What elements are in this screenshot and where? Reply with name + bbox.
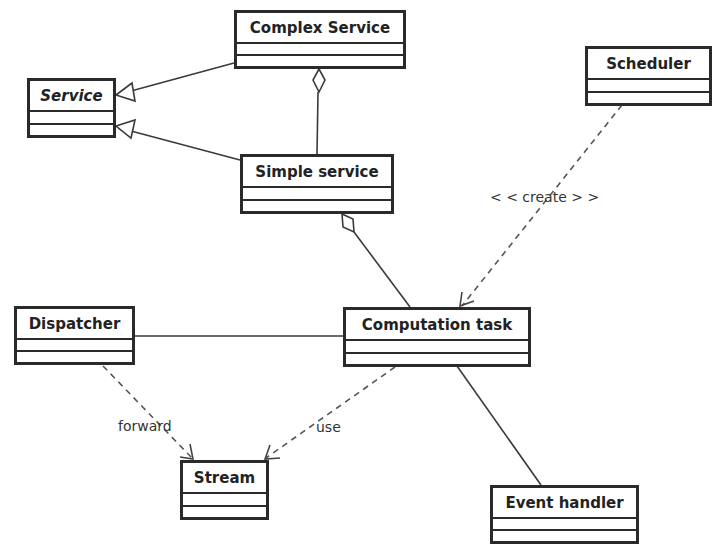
- hollow-diamond-icon: [342, 214, 354, 232]
- class-name: Event handler: [493, 488, 636, 517]
- class-scheduler[interactable]: Scheduler: [585, 46, 712, 106]
- association-computation-eventhandler: [457, 366, 541, 485]
- class-name: Dispatcher: [17, 309, 132, 338]
- class-name: Simple service: [243, 157, 391, 186]
- class-complex-service[interactable]: Complex Service: [234, 10, 406, 69]
- class-event-handler[interactable]: Event handler: [490, 485, 639, 544]
- hollow-triangle-icon: [116, 83, 135, 101]
- attributes-compartment: [183, 492, 266, 505]
- class-name: Scheduler: [588, 49, 709, 78]
- attributes-compartment: [346, 339, 528, 352]
- hollow-triangle-icon: [116, 120, 135, 138]
- aggregation-complex-simple: [317, 92, 318, 154]
- class-computation-task[interactable]: Computation task: [343, 307, 531, 367]
- forward-label: forward: [118, 418, 172, 434]
- class-name: Service: [30, 81, 113, 110]
- dependency-create: [462, 105, 622, 306]
- create-stereotype-label: < < create > >: [490, 189, 599, 205]
- class-stream[interactable]: Stream: [180, 460, 269, 520]
- operations-compartment: [346, 352, 528, 365]
- operations-compartment: [237, 54, 403, 66]
- attributes-compartment: [237, 42, 403, 54]
- operations-compartment: [243, 199, 391, 212]
- use-label: use: [316, 419, 341, 435]
- class-simple-service[interactable]: Simple service: [240, 154, 394, 214]
- attributes-compartment: [17, 338, 132, 350]
- operations-compartment: [30, 123, 113, 136]
- class-dispatcher[interactable]: Dispatcher: [14, 306, 135, 365]
- attributes-compartment: [243, 186, 391, 199]
- generalization-complex-to-service: [131, 63, 234, 91]
- operations-compartment: [17, 350, 132, 362]
- open-arrow-icon: [460, 292, 474, 306]
- operations-compartment: [183, 505, 266, 518]
- hollow-diamond-icon: [313, 69, 325, 92]
- dependency-use: [266, 367, 395, 458]
- attributes-compartment: [493, 517, 636, 529]
- aggregation-simple-computation: [354, 232, 410, 307]
- operations-compartment: [493, 529, 636, 541]
- class-name: Complex Service: [237, 13, 403, 42]
- class-name: Stream: [183, 463, 266, 492]
- generalization-simple-to-service: [131, 131, 240, 160]
- operations-compartment: [588, 91, 709, 104]
- attributes-compartment: [588, 78, 709, 91]
- class-service[interactable]: Service: [27, 78, 116, 138]
- class-name: Computation task: [346, 310, 528, 339]
- attributes-compartment: [30, 110, 113, 123]
- dependency-forward: [103, 366, 192, 458]
